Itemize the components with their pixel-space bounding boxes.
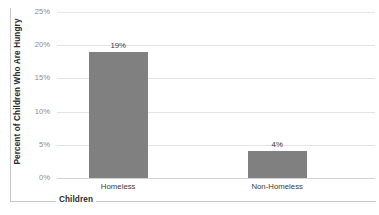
- bar-fill: [89, 52, 148, 178]
- gridline: [57, 12, 375, 13]
- bar-non-homeless[interactable]: 4%: [248, 151, 307, 178]
- bar-value-label: 19%: [110, 41, 126, 50]
- x-axis-title: Children: [56, 195, 96, 204]
- x-axis-tick-label: Homeless: [39, 182, 198, 191]
- y-axis-tick-label: 25%: [4, 7, 50, 16]
- bar-value-label: 4%: [272, 140, 283, 149]
- x-axis-tick-label: Non-Homeless: [198, 182, 357, 191]
- bar-homeless[interactable]: 19%: [89, 52, 148, 178]
- y-axis-tick-label: 5%: [4, 140, 50, 149]
- bar-chart: Percent of Children Who Are Hungry 0%5%1…: [0, 0, 379, 215]
- y-axis-tick-label: 0%: [4, 173, 50, 182]
- gridline: [57, 45, 375, 46]
- y-axis-title: Percent of Children Who Are Hungry: [13, 2, 22, 182]
- bar-fill: [248, 151, 307, 178]
- y-axis-tick-label: 10%: [4, 107, 50, 116]
- y-axis-tick-label: 15%: [4, 73, 50, 82]
- gridline: [57, 178, 375, 179]
- plot-area: 0%5%10%15%20%25%19%4%: [57, 12, 375, 178]
- y-axis-tick-label: 20%: [4, 40, 50, 49]
